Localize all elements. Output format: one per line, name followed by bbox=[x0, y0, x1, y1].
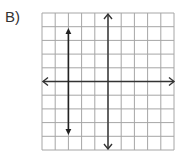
line-up-arrow-icon bbox=[66, 28, 72, 34]
line-down-arrow-icon bbox=[66, 129, 72, 135]
coordinate-graph bbox=[0, 0, 186, 158]
